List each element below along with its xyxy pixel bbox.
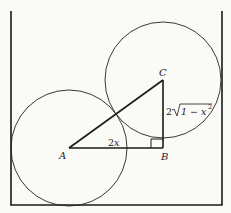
right-angle-marker bbox=[151, 139, 163, 148]
bc-coef: 2 bbox=[166, 106, 172, 117]
bc-exponent: 2 bbox=[208, 103, 212, 111]
geometry-diagram: A B C 2x 2 1 − x 2 bbox=[0, 0, 231, 213]
bc-radicand: 1 − x bbox=[181, 106, 207, 117]
label-bc-length: 2 1 − x 2 bbox=[166, 103, 212, 117]
label-ab-length: 2x bbox=[108, 137, 120, 148]
label-b: B bbox=[160, 151, 168, 162]
label-a: A bbox=[58, 150, 66, 161]
label-c: C bbox=[159, 67, 167, 78]
